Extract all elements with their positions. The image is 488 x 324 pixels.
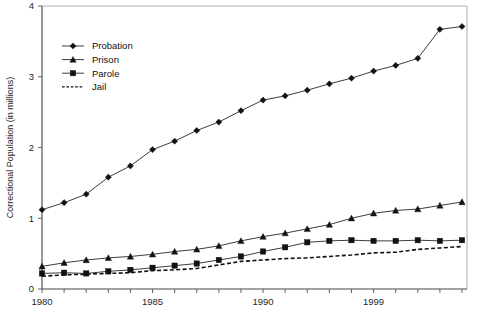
y-tick-label: 0 [29,283,34,294]
legend-label: Parole [92,68,119,79]
y-tick-group: 01234 [29,0,42,294]
y-tick-label: 4 [29,0,34,11]
y-tick-label: 1 [29,213,34,224]
data-point [39,207,45,213]
data-point [327,238,332,243]
data-point [194,261,199,266]
data-point [415,237,420,242]
series-prison [39,199,465,269]
data-point [216,119,222,125]
x-tick-label: 1999 [363,296,384,307]
data-point [371,238,376,243]
data-point [39,271,44,276]
data-point [172,263,177,268]
y-tick-label: 3 [29,71,34,82]
data-point [70,43,76,49]
x-tick-label: 1985 [142,296,163,307]
data-point [282,245,287,250]
y-axis-label: Correctional Population (in millions) [5,77,15,219]
data-point [194,127,200,133]
legend-label: Probation [92,40,133,51]
legend-item-parole[interactable]: Parole [62,68,119,79]
data-point [70,71,75,76]
y-tick-label: 2 [29,142,34,153]
data-point [282,93,288,99]
series-line [42,240,462,273]
data-point [304,87,310,93]
data-point [459,237,464,242]
x-tick-group: 1980198519901999 [31,289,462,307]
data-point [459,23,465,29]
data-point [326,81,332,87]
legend-item-prison[interactable]: Prison [62,54,119,65]
data-point [127,163,133,169]
x-tick-label: 1990 [252,296,273,307]
legend-item-probation[interactable]: Probation [62,40,133,51]
data-point [393,238,398,243]
data-point [305,240,310,245]
x-tick-label: 1980 [31,296,52,307]
legend-label: Jail [92,81,106,92]
series-line [42,202,462,266]
data-point [459,199,465,205]
data-point [150,265,155,270]
data-point [437,238,442,243]
data-point [348,75,354,81]
data-point [260,249,265,254]
legend-label: Prison [92,54,119,65]
chart-legend: ProbationPrisonParoleJail [62,40,133,92]
line-chart: 012341980198519901999Correctional Popula… [0,0,488,324]
data-point [393,62,399,68]
data-point [238,108,244,114]
data-point [149,147,155,153]
data-point [349,237,354,242]
data-point [216,257,221,262]
data-point [370,68,376,74]
data-point [238,254,243,259]
data-point [172,138,178,144]
legend-item-jail[interactable]: Jail [62,81,106,92]
data-point [260,97,266,103]
chart-figure: 012341980198519901999Correctional Popula… [0,0,488,324]
series-probation [39,23,465,212]
series-parole [39,237,464,276]
data-point [61,200,67,206]
